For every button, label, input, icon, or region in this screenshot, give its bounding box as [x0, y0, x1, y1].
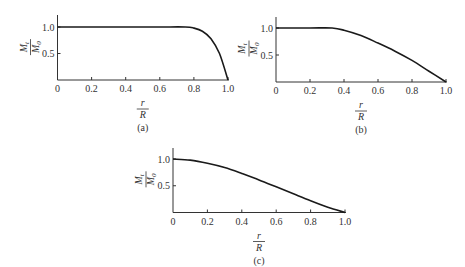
x-axis-label: rR: [253, 230, 265, 253]
svg-text:R: R: [139, 109, 146, 120]
figure-canvas: 00.20.40.60.81.00.51.0MtM0rR(a)00.20.40.…: [0, 0, 465, 267]
svg-text:r: r: [359, 99, 363, 110]
y-tick-label: 0.5: [261, 50, 274, 61]
y-axis-label: MtM0: [236, 41, 261, 57]
svg-text:r: r: [257, 230, 261, 241]
svg-text:R: R: [255, 242, 262, 253]
x-tick-label: 1.0: [339, 216, 352, 227]
x-tick-label: 0.8: [188, 83, 201, 94]
y-tick-label: 1.0: [158, 154, 171, 165]
chart-caption: (b): [355, 124, 367, 136]
y-tick-label: 1.0: [261, 23, 274, 34]
svg-text:M0: M0: [248, 42, 261, 55]
x-tick-label: 0.8: [304, 216, 317, 227]
chart-b: 00.20.40.60.81.00.51.0MtM0rR(b): [236, 17, 452, 136]
x-tick-label: 0.4: [119, 83, 132, 94]
chart-caption: (c): [253, 255, 264, 267]
y-tick-label: 0.5: [42, 48, 55, 59]
x-tick-label: 0: [171, 216, 176, 227]
x-tick-label: 1.0: [440, 85, 453, 96]
x-axis-label: rR: [137, 97, 149, 120]
data-curve: [276, 28, 446, 82]
data-curve: [173, 159, 345, 213]
x-tick-label: 0: [274, 85, 279, 96]
chart-c: 00.20.40.60.81.00.51.0MtM0rR(c): [133, 148, 351, 267]
x-tick-label: 0.2: [201, 216, 214, 227]
x-tick-label: 0: [55, 83, 60, 94]
x-tick-label: 0.6: [372, 85, 385, 96]
x-tick-label: 0.4: [338, 85, 351, 96]
x-tick-label: 1.0: [222, 83, 235, 94]
x-tick-label: 0.8: [406, 85, 419, 96]
data-curve: [58, 27, 229, 80]
x-axis-label: rR: [355, 99, 367, 122]
y-axis-label: MtM0: [18, 39, 43, 55]
x-tick-label: 0.2: [304, 85, 317, 96]
y-axis-label: MtM0: [133, 171, 158, 187]
x-tick-label: 0.2: [85, 83, 98, 94]
y-tick-label: 1.0: [42, 22, 55, 33]
svg-text:M0: M0: [30, 41, 43, 54]
x-tick-label: 0.6: [154, 83, 167, 94]
svg-text:r: r: [141, 97, 145, 108]
svg-text:M0: M0: [145, 173, 158, 186]
chart-a: 00.20.40.60.81.00.51.0MtM0rR(a): [18, 15, 235, 134]
x-tick-label: 0.6: [270, 216, 283, 227]
y-tick-label: 0.5: [158, 180, 171, 191]
svg-text:R: R: [357, 111, 364, 122]
x-tick-label: 0.4: [236, 216, 249, 227]
chart-caption: (a): [137, 122, 148, 134]
